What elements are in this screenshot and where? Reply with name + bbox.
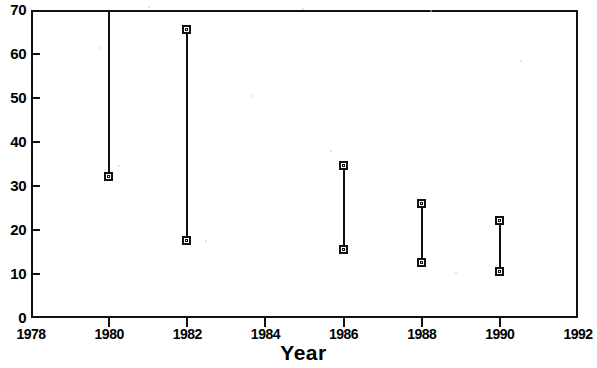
y-tick-label-50: 50 xyxy=(0,90,26,105)
marker-center xyxy=(420,202,423,205)
x-tick-label-1982: 1982 xyxy=(157,327,217,341)
y-tick-30 xyxy=(31,185,40,187)
speck-0 xyxy=(148,6,150,8)
y-tick-40 xyxy=(31,141,40,143)
high-marker-1988 xyxy=(417,199,426,208)
marker-center xyxy=(185,239,188,242)
speck-9 xyxy=(520,60,522,62)
high-marker-1986 xyxy=(339,161,348,170)
y-tick-label-30: 30 xyxy=(0,178,26,193)
range-bar-1988 xyxy=(421,204,423,263)
x-tick-label-1988: 1988 xyxy=(392,327,452,341)
high-marker-1982 xyxy=(182,25,191,34)
marker-center xyxy=(107,175,110,178)
speck-2 xyxy=(430,10,432,12)
speck-8 xyxy=(98,47,100,49)
x-tick-label-1980: 1980 xyxy=(79,327,139,341)
marker-center xyxy=(498,219,501,222)
speck-3 xyxy=(118,165,120,167)
x-tick-label-1984: 1984 xyxy=(235,327,295,341)
speck-5 xyxy=(330,150,332,152)
y-tick-label-60: 60 xyxy=(0,46,26,61)
marker-center xyxy=(420,261,423,264)
y-tick-label-40: 40 xyxy=(0,134,26,149)
range-bar-1986 xyxy=(343,166,345,250)
low-marker-1990 xyxy=(495,267,504,276)
high-marker-1990 xyxy=(495,216,504,225)
range-bar-1990 xyxy=(499,221,501,272)
chart-figure: 010203040506070 197819801982198419861988… xyxy=(0,0,597,368)
y-tick-50 xyxy=(31,97,40,99)
x-tick-label-1990: 1990 xyxy=(470,327,530,341)
y-tick-20 xyxy=(31,229,40,231)
marker-center xyxy=(185,28,188,31)
range-bar-1982 xyxy=(186,30,188,241)
marker-center xyxy=(498,270,501,273)
x-tick-label-1992: 1992 xyxy=(548,327,597,341)
y-tick-label-20: 20 xyxy=(0,222,26,237)
y-tick-10 xyxy=(31,273,40,275)
low-marker-1980 xyxy=(104,172,113,181)
y-tick-label-0: 0 xyxy=(0,310,26,325)
y-tick-label-10: 10 xyxy=(0,266,26,281)
speck-7 xyxy=(205,240,207,242)
low-marker-1986 xyxy=(339,245,348,254)
low-marker-1982 xyxy=(182,236,191,245)
x-tick-label-1986: 1986 xyxy=(314,327,374,341)
speck-4 xyxy=(250,95,252,97)
x-axis-title-text: Year xyxy=(280,341,326,364)
range-bar-1980 xyxy=(108,10,110,177)
low-marker-1988 xyxy=(417,258,426,267)
marker-center xyxy=(342,164,345,167)
y-tick-label-70: 70 xyxy=(0,2,26,17)
x-tick-label-1978: 1978 xyxy=(1,327,61,341)
y-tick-60 xyxy=(31,53,40,55)
speck-1 xyxy=(302,8,304,10)
speck-6 xyxy=(455,272,457,274)
marker-center xyxy=(342,248,345,251)
x-axis-title: Year xyxy=(0,341,597,365)
